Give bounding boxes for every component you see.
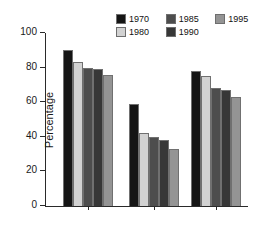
y-axis-title: Percentage — [43, 91, 55, 147]
bar-white-1985[interactable] — [83, 68, 93, 206]
y-tick-label-20: 20 — [26, 164, 37, 175]
bar-black-1995[interactable] — [169, 149, 179, 206]
y-tick-label-0: 0 — [31, 199, 37, 210]
x-tick-white — [88, 206, 89, 210]
bar-white-1980[interactable] — [73, 62, 83, 206]
legend-swatch-icon-1985 — [166, 14, 176, 24]
y-tick-40: 40 — [40, 136, 45, 137]
bar-group-white — [63, 33, 113, 206]
legend-entry-1995[interactable]: 1995 — [215, 14, 256, 24]
bar-hispanic-1970[interactable] — [191, 71, 201, 206]
legend-entry-1970[interactable]: 1970 — [116, 14, 157, 24]
legend-label-1985: 1985 — [179, 14, 199, 24]
bar-hispanic-1985[interactable] — [211, 88, 221, 206]
y-tick-80: 80 — [40, 67, 45, 68]
legend-swatch-icon-1995 — [215, 14, 225, 24]
bar-hispanic-1980[interactable] — [201, 76, 211, 206]
legend-label-1970: 1970 — [129, 14, 149, 24]
bar-group-black — [129, 33, 179, 206]
bar-white-1970[interactable] — [63, 50, 73, 206]
legend-label-1995: 1995 — [228, 14, 248, 24]
legend-entry-1985[interactable]: 1985 — [166, 14, 207, 24]
bar-white-1990[interactable] — [93, 69, 103, 206]
y-tick-20: 20 — [40, 170, 45, 171]
bar-white-1995[interactable] — [103, 75, 113, 206]
bar-black-1990[interactable] — [159, 140, 169, 206]
y-tick-label-80: 80 — [26, 61, 37, 72]
x-tick-hispanic — [216, 206, 217, 210]
bar-black-1985[interactable] — [149, 137, 159, 206]
y-tick-100: 100 — [40, 32, 45, 33]
bar-hispanic-1990[interactable] — [221, 90, 231, 206]
y-tick-60: 60 — [40, 101, 45, 102]
plot-area: Percentage 020406080100WhiteBlackHispani… — [45, 33, 245, 206]
y-tick-0: 0 — [40, 205, 45, 206]
bar-chart-figure: 19701980198519901995 Percentage 02040608… — [0, 0, 263, 235]
legend-swatch-icon-1970 — [116, 14, 126, 24]
y-tick-label-100: 100 — [20, 26, 37, 37]
bar-group-hispanic — [191, 33, 241, 206]
bar-black-1970[interactable] — [129, 104, 139, 206]
y-tick-label-40: 40 — [26, 130, 37, 141]
bar-black-1980[interactable] — [139, 133, 149, 206]
x-tick-black — [154, 206, 155, 210]
bar-hispanic-1995[interactable] — [231, 97, 241, 206]
x-axis-line — [45, 206, 248, 207]
y-tick-label-60: 60 — [26, 95, 37, 106]
